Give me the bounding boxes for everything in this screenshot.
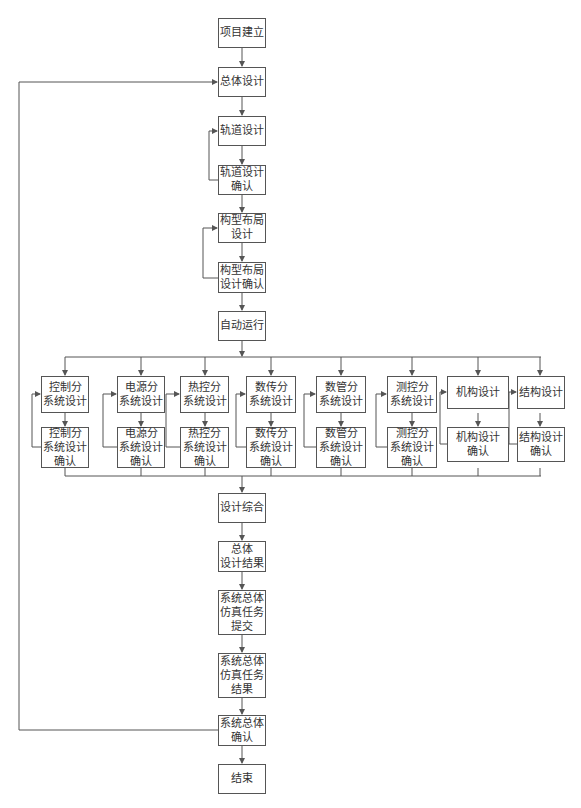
node-mechanism-confirm: 机构设计 确认	[447, 427, 509, 462]
node-orbit-design: 轨道设计	[218, 116, 266, 146]
node-end: 结束	[218, 764, 266, 794]
node-datatx-design: 数传分 系统设计	[246, 376, 296, 413]
node-structure-design: 结构设计	[517, 376, 565, 409]
node-config-confirm: 构型布局 设计确认	[218, 262, 266, 293]
node-thermal-confirm: 热控分 系统设计 确认	[180, 427, 229, 468]
node-control-design: 控制分 系统设计	[41, 376, 89, 413]
node-overall-design: 总体设计	[218, 67, 266, 97]
flowchart-canvas: 项目建立 总体设计 轨道设计 轨道设计 确认 构型布局 设计 构型布局 设计确认…	[0, 0, 581, 808]
node-control-confirm: 控制分 系统设计 确认	[41, 427, 89, 468]
node-auto-run: 自动运行	[218, 311, 266, 341]
node-datamgmt-design: 数管分 系统设计	[316, 376, 366, 413]
node-system-confirm: 系统总体 确认	[218, 715, 266, 746]
node-config-design: 构型布局 设计	[218, 213, 266, 243]
node-sim-submit: 系统总体 仿真任务 提交	[218, 590, 266, 635]
node-thermal-design: 热控分 系统设计	[180, 376, 229, 413]
node-sim-result: 系统总体 仿真任务 结果	[218, 653, 266, 698]
node-mechanism-design: 机构设计	[447, 376, 509, 409]
node-datatx-confirm: 数传分 系统设计 确认	[246, 427, 296, 468]
node-power-confirm: 电源分 系统设计 确认	[117, 427, 165, 468]
node-project-setup: 项目建立	[218, 18, 266, 48]
node-datamgmt-confirm: 数管分 系统设计 确认	[316, 427, 366, 468]
node-design-integration: 设计综合	[218, 493, 266, 523]
node-structure-confirm: 结构设计 确认	[517, 427, 565, 462]
node-orbit-confirm: 轨道设计 确认	[218, 165, 266, 195]
node-ttc-design: 测控分 系统设计	[387, 376, 437, 413]
node-overall-result: 总体 设计结果	[218, 541, 266, 572]
node-ttc-confirm: 测控分 系统设计 确认	[387, 427, 437, 468]
node-power-design: 电源分 系统设计	[117, 376, 165, 413]
